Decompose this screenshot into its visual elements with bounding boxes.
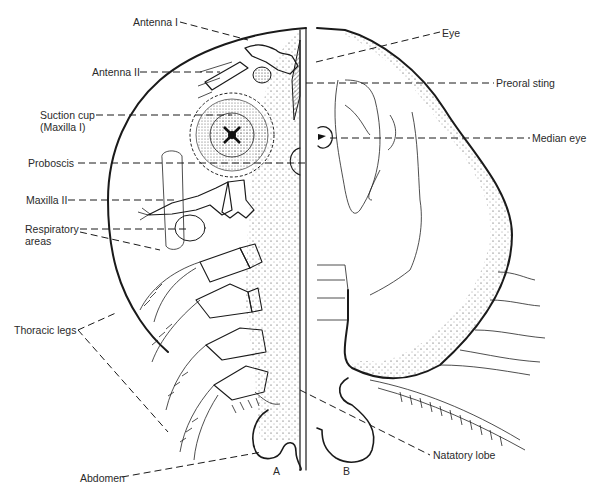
panel-label-b: B: [343, 465, 350, 477]
label-maxilla-2: Maxilla II: [26, 194, 67, 206]
label-thoracic-legs: Thoracic legs: [14, 324, 76, 336]
antenna-gland: [253, 67, 271, 83]
label-antenna-2: Antenna II: [92, 66, 140, 78]
panel-label-a: A: [273, 465, 280, 477]
label-eye: Eye: [442, 27, 460, 39]
label-suction-cup-sub: (Maxilla I): [40, 121, 86, 133]
body-median-region: [245, 30, 300, 440]
label-proboscis: Proboscis: [28, 157, 74, 169]
suction-cup-maxilla-1: [190, 93, 274, 177]
natatory-lobe: [317, 378, 374, 462]
label-suction-cup: Suction cup: [40, 109, 95, 121]
antenna-2: [205, 62, 248, 90]
respiratory-area-inner: [175, 215, 205, 241]
label-abdomen: Abdomen: [80, 472, 125, 484]
label-natatory-lobe: Natatory lobe: [433, 449, 495, 461]
panel-b-dorsal: [317, 28, 545, 462]
label-respiratory-sub: areas: [25, 235, 51, 247]
maxilla-2: [148, 182, 232, 215]
label-median-eye: Median eye: [532, 132, 586, 144]
label-preoral-sting: Preoral sting: [496, 77, 555, 89]
label-respiratory: Respiratory: [25, 223, 79, 235]
panel-a-ventral: [108, 28, 306, 470]
argulus-anatomy-drawing: [0, 0, 603, 497]
label-antenna-1: Antenna I: [133, 16, 178, 28]
carapace-stipple-rim: [345, 30, 512, 378]
